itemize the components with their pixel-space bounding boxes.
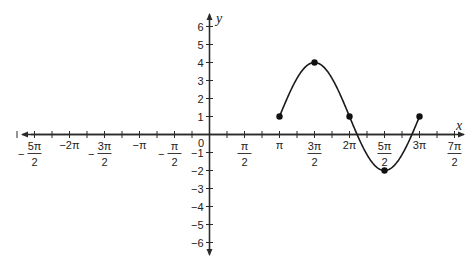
x-tick-fraction: 5π2 bbox=[378, 140, 392, 168]
x-tick-fraction: π2 bbox=[238, 140, 252, 168]
y-tick-label: 2 bbox=[197, 93, 203, 105]
y-axis-label: y bbox=[214, 11, 223, 26]
sine-graph: x y 0 5π2−−2π3π2−−ππ2−π2π3π22π5π23π7π2 −… bbox=[0, 0, 476, 264]
key-point bbox=[346, 113, 352, 119]
svg-text:2: 2 bbox=[381, 156, 387, 168]
svg-text:3π: 3π bbox=[308, 140, 322, 152]
x-tick-fraction: 5π2− bbox=[18, 140, 42, 168]
y-tick-label: 5 bbox=[197, 39, 203, 51]
svg-text:2: 2 bbox=[101, 156, 107, 168]
svg-text:2: 2 bbox=[171, 156, 177, 168]
x-tick-fraction: 3π2 bbox=[308, 140, 322, 168]
svg-text:2: 2 bbox=[241, 156, 247, 168]
y-tick-label: −5 bbox=[191, 219, 204, 231]
x-tick-fraction: 3π2− bbox=[88, 140, 112, 168]
svg-text:2: 2 bbox=[311, 156, 317, 168]
y-tick-label: 3 bbox=[197, 75, 203, 87]
y-tick-label: −3 bbox=[191, 183, 204, 195]
x-tick-label: 3π bbox=[413, 139, 427, 151]
svg-text:π: π bbox=[241, 140, 249, 152]
svg-text:5π: 5π bbox=[378, 140, 392, 152]
y-tick-label: −4 bbox=[191, 201, 204, 213]
x-axis-label: x bbox=[455, 118, 463, 133]
x-tick-labels: 5π2−−2π3π2−−ππ2−π2π3π22π5π23π7π2 bbox=[18, 139, 462, 168]
y-tick-label: −1 bbox=[191, 147, 204, 159]
svg-text:7π: 7π bbox=[448, 140, 462, 152]
svg-text:2: 2 bbox=[31, 156, 37, 168]
x-tick-label: 2π bbox=[343, 139, 357, 151]
svg-text:−: − bbox=[88, 148, 94, 160]
key-point bbox=[311, 59, 317, 65]
key-point bbox=[276, 113, 282, 119]
x-tick-label: −2π bbox=[59, 139, 80, 151]
svg-text:5π: 5π bbox=[28, 140, 42, 152]
key-point bbox=[416, 113, 422, 119]
x-tick-fraction: π2− bbox=[158, 140, 181, 168]
x-tick-fraction: 7π2 bbox=[448, 140, 462, 168]
svg-text:3π: 3π bbox=[98, 140, 112, 152]
svg-text:−: − bbox=[18, 148, 24, 160]
svg-text:−: − bbox=[158, 148, 164, 160]
y-tick-label: 1 bbox=[197, 111, 203, 123]
svg-text:π: π bbox=[171, 140, 179, 152]
y-tick-label: 4 bbox=[197, 57, 203, 69]
svg-text:2: 2 bbox=[451, 156, 457, 168]
x-tick-label: −π bbox=[132, 139, 146, 151]
key-point bbox=[381, 167, 387, 173]
y-tick-label: 6 bbox=[197, 21, 203, 33]
y-tick-label: −6 bbox=[191, 237, 204, 249]
x-tick-label: π bbox=[276, 139, 284, 151]
y-tick-label: −2 bbox=[191, 165, 204, 177]
